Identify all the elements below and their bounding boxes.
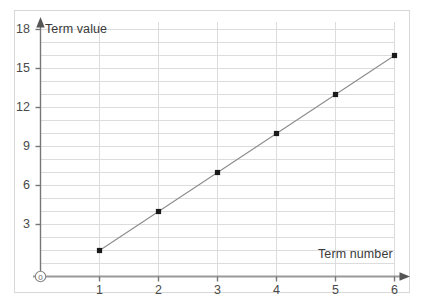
data-point bbox=[156, 209, 161, 214]
y-tick-label-9: 9 bbox=[8, 139, 30, 153]
y-tick-label-6: 6 bbox=[8, 178, 30, 192]
y-tick-label-12: 12 bbox=[8, 100, 30, 114]
y-axis-arrow-icon bbox=[36, 17, 44, 28]
y-tick-label-3: 3 bbox=[8, 217, 30, 231]
x-tick-label-5: 5 bbox=[326, 283, 346, 297]
y-tick-label-15: 15 bbox=[8, 61, 30, 75]
y-axis-ticks bbox=[36, 30, 41, 225]
x-tick-label-2: 2 bbox=[149, 283, 169, 297]
data-point bbox=[97, 248, 102, 253]
y-axis-title: Term value bbox=[45, 22, 107, 36]
data-point bbox=[392, 53, 397, 58]
data-point bbox=[274, 131, 279, 136]
origin-marker: 0 bbox=[35, 271, 45, 282]
data-point bbox=[215, 170, 220, 175]
x-axis bbox=[33, 272, 410, 280]
data-point bbox=[333, 92, 338, 97]
x-tick-label-4: 4 bbox=[267, 283, 287, 297]
x-tick-label-6: 6 bbox=[385, 283, 405, 297]
origin-zero-label: 0 bbox=[38, 273, 43, 282]
y-tick-label-18: 18 bbox=[8, 22, 30, 36]
x-axis-title: Term number bbox=[318, 247, 393, 261]
x-axis-arrow-icon bbox=[400, 272, 411, 280]
x-tick-label-1: 1 bbox=[90, 283, 110, 297]
vertical-gridlines bbox=[100, 22, 395, 277]
chart-figure: 0 18 15 12 9 6 3 1 2 3 4 5 6 Term value … bbox=[0, 0, 424, 303]
data-line bbox=[100, 56, 395, 251]
x-tick-label-3: 3 bbox=[208, 283, 228, 297]
